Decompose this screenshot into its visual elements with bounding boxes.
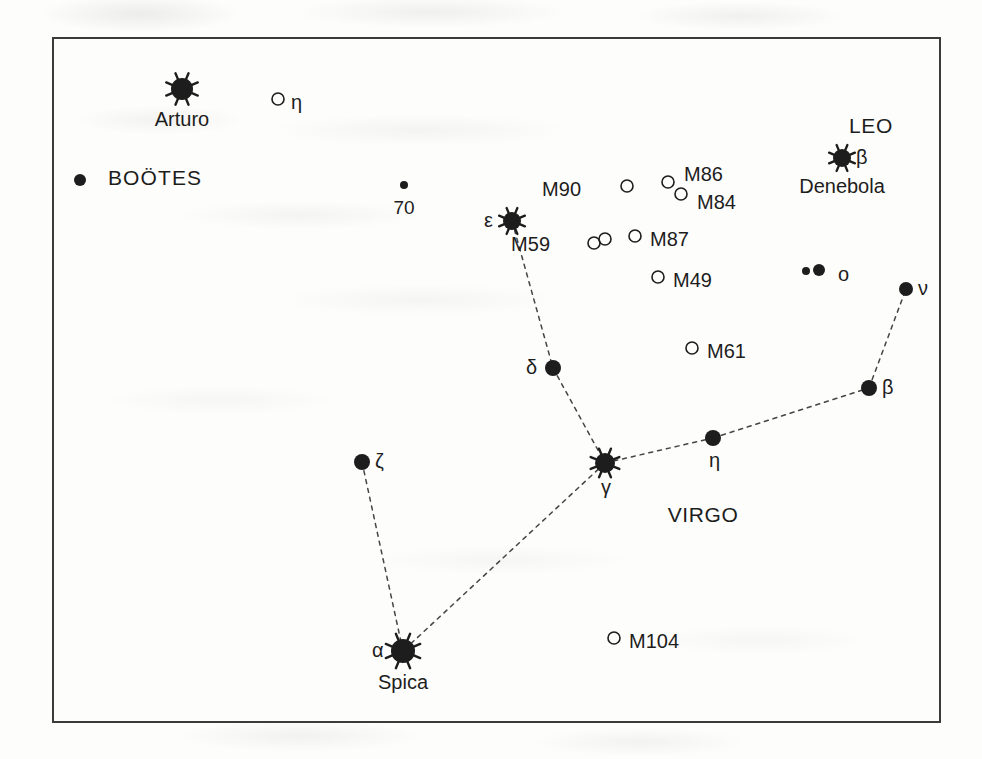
starfield-canvas <box>0 0 982 759</box>
star-arturo-spike <box>191 82 197 85</box>
star-denebola-spike <box>829 153 834 155</box>
label-virgo: VIRGO <box>668 504 739 525</box>
dso-m84-label: M84 <box>697 192 736 212</box>
star-arturo-spike <box>186 73 189 79</box>
star-gamma-spike <box>609 449 611 455</box>
star-epsilon-spike <box>499 224 504 226</box>
star-arturo-spike <box>191 93 197 96</box>
dso-m59 <box>588 233 611 249</box>
star-gamma-spike <box>599 449 601 455</box>
line-delta-gamma <box>553 368 605 463</box>
dso-eta-coma-label: η <box>291 92 302 112</box>
star-zeta-disc <box>354 454 370 470</box>
label-leo: LEO <box>849 115 893 136</box>
dso-m49-label: M49 <box>673 270 712 290</box>
star-denebola-spike <box>829 161 834 163</box>
star-arturo <box>166 73 198 105</box>
star-denebola-spike <box>837 145 839 150</box>
star-arturo-spike <box>166 93 172 96</box>
dso-m59-component-2 <box>599 233 611 245</box>
star-epsilon <box>499 208 525 234</box>
star-zeta <box>354 454 370 470</box>
star-beta-virgo-greek-label: β <box>882 377 894 397</box>
star-epsilon-spike <box>520 216 525 218</box>
dso-m61-label: M61 <box>707 341 746 361</box>
star-70-disc <box>400 181 408 189</box>
star-gamma-disc <box>595 453 615 473</box>
line-eta-beta <box>713 388 869 438</box>
dso-m86 <box>662 176 674 188</box>
label-bootes-bullet <box>74 174 86 186</box>
star-beta-virgo-disc <box>861 380 877 396</box>
star-delta-disc <box>545 360 561 376</box>
star-spica-greek-label: α <box>372 640 384 660</box>
star-70-name-label: 70 <box>393 198 414 217</box>
star-denebola-spike <box>850 153 855 155</box>
dso-m87-label: M87 <box>650 229 689 249</box>
star-omicron-greek-label: ο <box>838 264 849 284</box>
star-arturo-spike <box>166 82 172 85</box>
star-denebola-disc <box>833 149 851 167</box>
star-spica-spike <box>413 644 420 647</box>
star-epsilon-greek-label: ε <box>484 210 493 230</box>
celestial-objects-group <box>74 73 913 668</box>
star-omicron <box>802 264 825 276</box>
star-gamma-greek-label: γ <box>601 477 611 497</box>
star-70 <box>400 181 408 189</box>
constellation-lines-group <box>362 221 906 651</box>
star-nu <box>899 282 913 296</box>
label-bootes: BOÖTES <box>108 167 202 188</box>
star-denebola-name-label: Denebola <box>799 176 885 196</box>
star-omicron-component-2 <box>813 264 825 276</box>
line-beta-nu <box>869 289 906 388</box>
star-epsilon-spike <box>507 229 509 234</box>
star-epsilon-spike <box>499 216 504 218</box>
star-arturo-spike <box>175 98 178 104</box>
star-gamma-spike <box>613 467 619 469</box>
line-gamma-eta <box>605 438 713 463</box>
dso-m90-label: M90 <box>542 179 581 199</box>
star-denebola-spike <box>845 166 847 171</box>
star-spica <box>386 634 420 668</box>
star-denebola-greek-label: β <box>856 147 868 167</box>
star-eta-virgo <box>705 430 721 446</box>
star-denebola <box>829 145 855 171</box>
dso-m86-label: M86 <box>684 164 723 184</box>
star-gamma-spike <box>591 457 597 459</box>
star-spica-spike <box>386 655 393 658</box>
star-chart-figure: ArturoβDenebolaαSpicaεγδζηβν70οηM90M86M8… <box>0 0 982 759</box>
dso-m59-component-1 <box>588 237 600 249</box>
star-gamma-spike <box>613 457 619 459</box>
star-delta <box>545 360 561 376</box>
star-arturo-spike <box>186 98 189 104</box>
star-nu-disc <box>899 282 913 296</box>
star-eta-virgo-disc <box>705 430 721 446</box>
star-arturo-spike <box>175 73 178 79</box>
star-spica-spike <box>386 644 393 647</box>
star-epsilon-spike <box>507 208 509 213</box>
star-spica-name-label: Spica <box>378 672 428 692</box>
star-arturo-name-label: Arturo <box>155 109 209 129</box>
dso-m104 <box>608 632 620 644</box>
star-spica-spike <box>407 661 410 668</box>
star-epsilon-spike <box>515 208 517 213</box>
star-eta-virgo-greek-label: η <box>709 450 720 470</box>
dso-m49 <box>652 271 664 283</box>
star-gamma <box>591 449 620 478</box>
dso-m59-label: M59 <box>511 234 550 254</box>
star-denebola-spike <box>850 161 855 163</box>
star-zeta-greek-label: ζ <box>375 451 384 471</box>
dso-m104-label: M104 <box>629 631 679 651</box>
dso-m90 <box>621 180 633 192</box>
dso-m61 <box>686 342 698 354</box>
star-spica-spike <box>413 655 420 658</box>
star-omicron-component-1 <box>802 267 810 275</box>
line-zeta-spica <box>362 462 403 651</box>
star-spica-spike <box>407 634 410 641</box>
star-delta-greek-label: δ <box>526 357 537 377</box>
star-epsilon-spike <box>520 224 525 226</box>
star-denebola-spike <box>837 166 839 171</box>
star-nu-greek-label: ν <box>918 278 928 298</box>
star-beta-virgo <box>861 380 877 396</box>
dso-m84 <box>675 188 687 200</box>
